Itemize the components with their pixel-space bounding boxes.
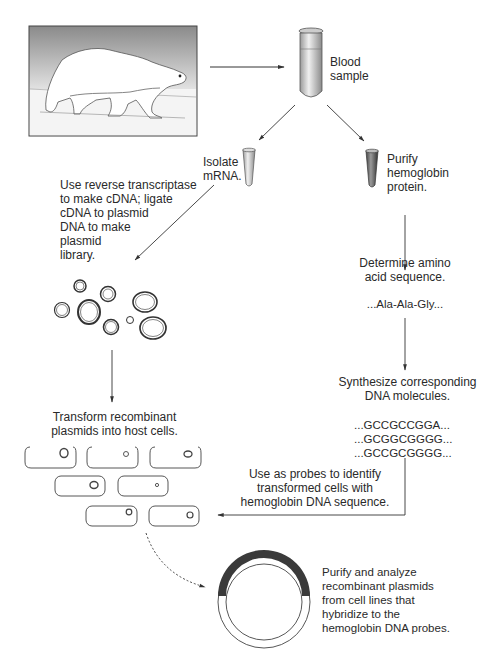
- diagram-canvas: [0, 0, 495, 663]
- dna-sequence-1: ...GCCGCCGGA...: [354, 418, 450, 432]
- recombinant-plasmid-icon: [218, 550, 310, 648]
- host-cell-icon: [55, 476, 105, 496]
- plasmid-icon: [55, 303, 70, 318]
- determine-sequence-label: Determine amino acid sequence.: [345, 256, 465, 284]
- purify-analyze-label: Purify and analyze recombinant plasmids …: [322, 565, 450, 635]
- host-cell-icon: [25, 447, 76, 468]
- plasmid-icon: [78, 300, 100, 324]
- blood-sample-tube-icon: [299, 28, 323, 97]
- blood-sample-label: Blood sample: [330, 55, 369, 83]
- host-cells: [25, 447, 201, 526]
- host-cell-icon: [118, 476, 168, 496]
- plasmid-icon: [140, 317, 166, 339]
- transform-label: Transform recombinant plasmids into host…: [42, 410, 187, 438]
- host-cell-icon: [150, 447, 201, 468]
- host-cell-icon: [86, 506, 137, 526]
- arrow-to-recombinant-plasmid: [146, 533, 205, 587]
- plasmid-icon: [133, 292, 157, 312]
- use-as-probes-label: Use as probes to identify transformed ce…: [230, 467, 400, 509]
- hemoglobin-tube-icon: [366, 149, 379, 187]
- purify-hemoglobin-label: Purify hemoglobin protein.: [387, 152, 449, 194]
- mrna-tube-icon: [243, 148, 256, 186]
- plasmid-icon: [127, 317, 134, 324]
- polar-bear-illustration: [29, 26, 197, 136]
- reverse-transcriptase-label: Use reverse transcriptase to make cDNA; …: [60, 178, 197, 262]
- arrow-to-purify-hemoglobin: [327, 105, 364, 141]
- host-cell-icon: [87, 447, 138, 468]
- host-cell-icon: [149, 506, 199, 526]
- plasmid-icon: [101, 287, 116, 302]
- plasmid-icon: [74, 280, 86, 292]
- plasmid-library: [55, 280, 167, 339]
- synthesize-dna-label: Synthesize corresponding DNA molecules.: [330, 375, 485, 403]
- isolate-mrna-label: Isolate mRNA.: [203, 155, 242, 183]
- arrow-to-isolate-mrna: [259, 105, 295, 140]
- amino-acid-sequence: ...Ala-Ala-Gly...: [345, 297, 465, 311]
- dna-sequence-2: ...GCGGCGGGG...: [354, 432, 452, 446]
- plasmid-icon: [104, 320, 119, 335]
- dna-sequence-3: ...GCCGCGGGG...: [354, 446, 452, 460]
